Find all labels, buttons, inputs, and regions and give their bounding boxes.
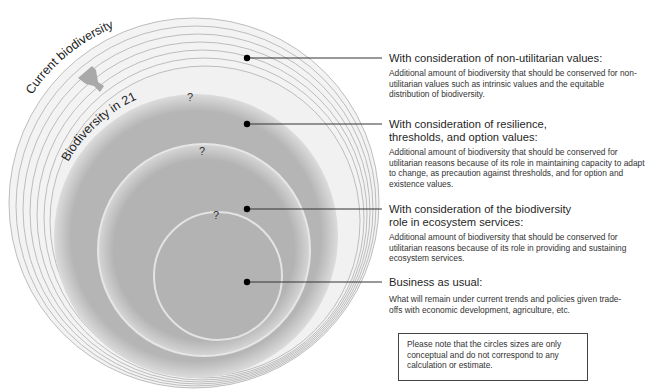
dot-marker-icon: [244, 206, 250, 212]
question-mark-1: ?: [187, 91, 193, 103]
dot-marker-icon: [244, 121, 250, 127]
legend-description: Additional amount of biodiversity that s…: [389, 68, 644, 100]
legend-ecosystem-services: With consideration of the biodiversity r…: [389, 203, 646, 264]
legend-description: What will remain under current trends an…: [389, 294, 629, 315]
legend-resilience: With consideration of resilience, thresh…: [389, 118, 646, 189]
question-mark-2: ?: [199, 145, 205, 157]
question-mark-3: ?: [213, 209, 219, 221]
dot-marker-icon: [244, 279, 250, 285]
legend-title: With consideration of non-utilitarian va…: [389, 52, 646, 65]
legend-description: Additional amount of biodiversity that s…: [389, 147, 646, 189]
legend-non-utilitarian: With consideration of non-utilitarian va…: [389, 52, 646, 100]
business-as-usual-circle: [154, 212, 282, 340]
legend-description: Additional amount of biodiversity that s…: [389, 232, 646, 264]
legend-title: With consideration of resilience, thresh…: [389, 118, 579, 144]
dot-marker-icon: [244, 55, 250, 61]
legend-title: With consideration of the biodiversity r…: [389, 203, 589, 229]
legend-business-as-usual: Business as usual: What will remain unde…: [389, 276, 646, 315]
legend-title: Business as usual:: [389, 276, 646, 289]
disclaimer-note: Please note that the circles sizes are o…: [398, 333, 588, 381]
